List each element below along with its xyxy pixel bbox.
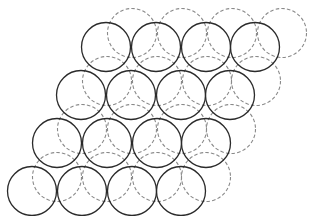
solid-circle-r2-c4	[206, 71, 255, 120]
dashed-circle-layer	[33, 9, 307, 202]
solid-circle-r2-c1	[57, 71, 106, 120]
dashed-circle-r1-c4	[258, 9, 307, 58]
solid-circle-r3-c2	[83, 119, 132, 168]
solid-circle-r3-c1	[33, 119, 82, 168]
circle-packing-diagram	[0, 0, 315, 216]
solid-circle-r3-c3	[133, 119, 182, 168]
solid-circle-r4-c2	[58, 167, 107, 216]
solid-circle-r1-c4	[231, 23, 280, 72]
solid-circle-r1-c1	[82, 23, 131, 72]
solid-circle-r4-c1	[8, 167, 57, 216]
solid-circle-r4-c3	[108, 167, 157, 216]
solid-circle-layer	[8, 23, 280, 216]
dashed-circle-r1-c3	[208, 9, 257, 58]
